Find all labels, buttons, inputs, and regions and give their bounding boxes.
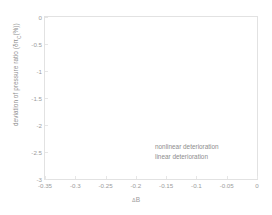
x-axis-tick-mark <box>257 176 258 179</box>
y-axis-tick-mark <box>45 152 48 153</box>
y-axis-tick-label: -1 <box>36 68 42 75</box>
y-axis-label-prefix: deviation of pressure ratio (δπ <box>12 39 19 126</box>
x-axis-tick-label: -0.05 <box>220 182 234 189</box>
y-axis-tick-mark <box>45 71 48 72</box>
y-axis-tick-mark <box>45 179 48 180</box>
x-axis-label-text: B <box>136 196 140 203</box>
y-axis-tick-mark <box>45 125 48 126</box>
x-axis-tick-label: -0.2 <box>131 182 142 189</box>
y-axis-label: deviation of pressure ratio (δπC(%)) <box>12 0 21 155</box>
legend-entry-linear: linear deterioration <box>155 152 219 162</box>
x-axis-tick-label: -0.3 <box>70 182 81 189</box>
y-axis-tick-label: -2.5 <box>31 149 42 156</box>
x-axis-tick-label: 0 <box>255 182 258 189</box>
x-axis-tick-mark <box>227 176 228 179</box>
chart-figure: 0-0.5-1-1.5-2-2.5-3 -0.35-0.3-0.25-0.2-0… <box>0 0 272 215</box>
x-axis-tick-mark <box>106 176 107 179</box>
x-axis-label: ΔB <box>0 196 272 203</box>
y-axis-label-suffix: (%)) <box>12 23 19 35</box>
x-axis-tick-mark <box>196 176 197 179</box>
chart-legend: nonlinear deterioration linear deteriora… <box>155 142 219 161</box>
y-axis-tick-label: -0.5 <box>31 41 42 48</box>
x-axis-tick-mark <box>45 176 46 179</box>
legend-entry-nonlinear: nonlinear deterioration <box>155 142 219 152</box>
y-axis-tick-label: 0 <box>39 14 42 21</box>
plot-area: 0-0.5-1-1.5-2-2.5-3 -0.35-0.3-0.25-0.2-0… <box>44 16 258 180</box>
y-axis-tick-label: -1.5 <box>31 95 42 102</box>
x-axis-tick-label: -0.1 <box>191 182 202 189</box>
y-axis-tick-mark <box>45 98 48 99</box>
x-axis-tick-mark <box>75 176 76 179</box>
y-axis-tick-mark <box>45 44 48 45</box>
y-axis-tick-label: -2 <box>36 122 42 129</box>
x-axis-tick-mark <box>166 176 167 179</box>
x-axis-tick-label: -0.35 <box>38 182 52 189</box>
x-axis-tick-label: -0.15 <box>159 182 173 189</box>
y-axis-tick-mark <box>45 17 48 18</box>
y-axis-label-subscript: C <box>17 36 22 40</box>
x-axis-tick-label: -0.25 <box>99 182 113 189</box>
x-axis-tick-mark <box>136 176 137 179</box>
